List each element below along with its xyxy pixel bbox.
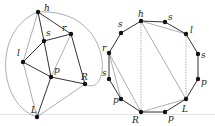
left-node-label: L: [30, 105, 37, 115]
right-node-p1: [196, 77, 200, 81]
left-node-label: h: [44, 3, 50, 13]
right-node-label: r: [102, 43, 107, 53]
graph-figure: hsrlpRL hslspLpRpsrs: [0, 0, 215, 126]
right-node-label: p: [168, 113, 174, 123]
right-node-p2: [163, 110, 167, 114]
right-edge-p1-L: [186, 79, 198, 99]
left-edge-s-p: [44, 41, 51, 77]
left-graph: hsrlpRL: [6, 3, 103, 119]
right-edge-R-L: [141, 99, 186, 112]
right-node-label: L: [181, 104, 188, 114]
left-edge-l-p: [23, 62, 51, 77]
right-edge-r-p3: [109, 53, 121, 99]
right-node-label: R: [131, 115, 139, 125]
left-node-label: l: [17, 48, 20, 58]
right-edge-r-s4: [109, 33, 121, 53]
right-edge-s1-l: [165, 22, 186, 34]
right-node-label: p: [113, 95, 119, 105]
left-node-L: [35, 115, 39, 119]
right-edge-s4-h: [121, 21, 141, 33]
right-edge-R-p3: [121, 99, 141, 112]
right-node-label: s: [201, 50, 206, 60]
right-node-label: p: [201, 77, 207, 87]
right-node-s3: [107, 77, 111, 81]
right-node-s4: [119, 31, 123, 35]
right-node-label: h: [138, 9, 144, 19]
left-node-label: p: [54, 65, 60, 75]
left-node-l: [21, 60, 25, 64]
right-node-L: [184, 97, 188, 101]
left-edge-p-L: [37, 77, 51, 117]
right-graph: hslspLpRpsrs: [102, 9, 207, 125]
left-node-r: [69, 32, 73, 36]
left-node-p: [49, 75, 53, 79]
left-node-s: [42, 39, 46, 43]
left-node-label: r: [62, 23, 67, 33]
right-node-label: l: [190, 25, 193, 35]
right-edge-l-s2: [186, 34, 198, 54]
right-node-h: [139, 19, 143, 23]
right-node-label: s: [168, 12, 173, 22]
left-edge-p-R: [51, 77, 85, 84]
right-node-s2: [196, 52, 200, 56]
right-edge-h-L: [141, 21, 186, 99]
right-node-R: [139, 110, 143, 114]
right-node-label: s: [118, 19, 123, 29]
left-node-R: [83, 82, 87, 86]
right-node-r: [107, 51, 111, 55]
left-edge-h-s: [38, 12, 44, 41]
right-node-s1: [163, 20, 167, 24]
right-node-l: [184, 32, 188, 36]
left-node-label: R: [80, 72, 88, 82]
left-node-h: [36, 10, 40, 14]
right-node-label: s: [102, 68, 107, 78]
left-edge-L-R: [37, 84, 85, 117]
right-node-p3: [119, 97, 123, 101]
left-node-label: s: [46, 28, 51, 38]
